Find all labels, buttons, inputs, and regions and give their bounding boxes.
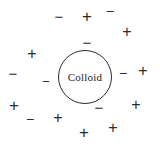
positive-charge-symbol: + bbox=[27, 46, 36, 62]
positive-charge-symbol: + bbox=[53, 110, 62, 126]
positive-charge-symbol: + bbox=[9, 97, 19, 114]
negative-charge-symbol: − bbox=[83, 35, 92, 50]
positive-charge-symbol: + bbox=[131, 97, 140, 113]
negative-charge-symbol: − bbox=[9, 66, 18, 81]
positive-charge-symbol: + bbox=[122, 24, 131, 40]
positive-charge-symbol: + bbox=[79, 124, 89, 141]
negative-charge-symbol: − bbox=[26, 112, 34, 126]
positive-charge-symbol: + bbox=[108, 120, 117, 136]
negative-charge-symbol: − bbox=[106, 4, 114, 18]
negative-charge-symbol: − bbox=[42, 75, 50, 88]
negative-charge-symbol: − bbox=[55, 9, 64, 24]
positive-charge-symbol: + bbox=[82, 8, 92, 25]
colloid-charge-diagram: Colloid −+−+−+−−−++−+−+++ bbox=[0, 0, 160, 146]
negative-charge-symbol: − bbox=[119, 66, 127, 80]
positive-charge-symbol: + bbox=[138, 63, 147, 79]
colloid-label: Colloid bbox=[68, 72, 102, 83]
colloid-particle: Colloid bbox=[58, 50, 112, 104]
negative-charge-symbol: − bbox=[95, 100, 104, 115]
